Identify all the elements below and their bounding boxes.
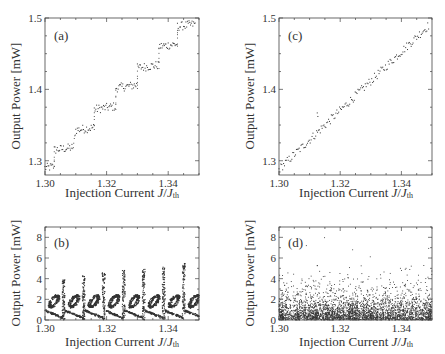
x-axis-label: Injection Current J/Jth [65, 334, 179, 349]
svg-text:1.3: 1.3 [28, 155, 42, 167]
svg-text:1.3: 1.3 [262, 155, 276, 167]
y-axis-label: Output Power [mW] [242, 43, 257, 150]
svg-text:1.30: 1.30 [269, 177, 289, 189]
panel-a: 1.301.321.341.31.41.5 (a) Output Power [… [8, 12, 199, 200]
svg-text:6: 6 [271, 252, 277, 264]
y-axis-label: Output Power [mW] [8, 43, 23, 150]
panel-label: (c) [288, 28, 302, 43]
svg-text:1.30: 1.30 [35, 177, 55, 189]
scatter-points [45, 263, 200, 320]
scatter-points [279, 22, 430, 172]
svg-text:2: 2 [271, 293, 277, 305]
panel-b: 1.301.321.3402468 (b) Output Power [mW] … [8, 220, 200, 349]
svg-text:4: 4 [271, 273, 277, 285]
svg-text:1.4: 1.4 [28, 83, 42, 95]
svg-text:6: 6 [37, 252, 43, 264]
svg-text:1.4: 1.4 [262, 83, 276, 95]
y-axis-label: Output Power [mW] [8, 220, 23, 327]
svg-text:1.34: 1.34 [159, 322, 179, 334]
svg-text:1.34: 1.34 [392, 322, 412, 334]
svg-text:1.5: 1.5 [28, 12, 42, 24]
panel-label: (d) [288, 235, 303, 250]
panel-label: (a) [54, 28, 68, 43]
panel-d: 1.301.321.3402468 (d) Output Power [mW] … [242, 220, 432, 349]
svg-text:0: 0 [37, 314, 43, 326]
svg-text:8: 8 [271, 231, 277, 243]
x-axis-label: Injection Current J/Jth [299, 185, 413, 200]
panel-c: 1.301.321.341.31.41.5 (c) Output Power [… [242, 12, 432, 200]
svg-text:1.32: 1.32 [97, 322, 116, 334]
panel-label: (b) [54, 235, 69, 250]
svg-text:2: 2 [37, 293, 43, 305]
svg-text:8: 8 [37, 231, 43, 243]
svg-text:1.32: 1.32 [331, 322, 350, 334]
svg-text:1.5: 1.5 [262, 12, 276, 24]
svg-text:0: 0 [271, 314, 277, 326]
svg-text:4: 4 [37, 273, 43, 285]
x-axis-label: Injection Current J/Jth [65, 185, 179, 200]
y-axis-label: Output Power [mW] [242, 220, 257, 327]
x-axis-label: Injection Current J/Jth [299, 334, 413, 349]
figure: 1.301.321.341.31.41.5 (a) Output Power [… [0, 0, 445, 354]
